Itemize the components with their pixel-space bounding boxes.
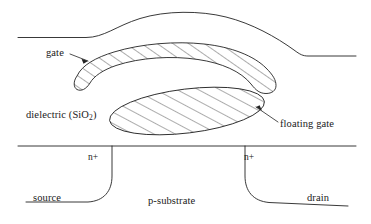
floating-gate-body xyxy=(107,80,267,143)
drain-junction xyxy=(245,146,348,206)
control-gate-body xyxy=(74,43,276,94)
label-n-plus-drain: n+ xyxy=(244,153,254,163)
label-floating-gate: floating gate xyxy=(280,119,334,130)
floating-gate-leader-line xyxy=(256,105,278,122)
label-p-substrate: p-substrate xyxy=(148,196,195,207)
gate-leader-line xyxy=(70,54,88,64)
label-gate: gate xyxy=(46,48,64,59)
label-source: source xyxy=(33,193,61,204)
label-dielectric-paren: ) xyxy=(93,109,97,120)
label-n-plus-source: n+ xyxy=(88,153,98,163)
label-dielectric-subscript: 2 xyxy=(89,113,93,122)
label-dielectric-text: dielectric (SiO xyxy=(26,109,89,120)
label-dielectric: dielectric (SiO2) xyxy=(26,110,97,121)
figure-root: gate dielectric (SiO2) floating gate n+ … xyxy=(0,0,371,224)
label-drain: drain xyxy=(307,193,329,204)
